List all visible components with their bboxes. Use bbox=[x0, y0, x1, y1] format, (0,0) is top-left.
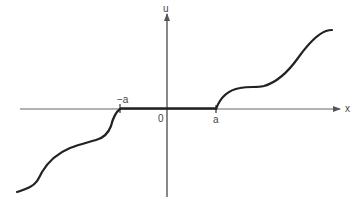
x-axis-label: x bbox=[345, 103, 350, 114]
y-axis-label: u bbox=[163, 3, 169, 14]
function-diagram: u x −a 0 a bbox=[0, 0, 356, 208]
tick-label-neg-a: −a bbox=[117, 94, 129, 105]
tick-label-pos-a: a bbox=[213, 114, 219, 125]
curve-right bbox=[216, 30, 332, 109]
origin-label: 0 bbox=[158, 113, 164, 124]
curve-left bbox=[17, 109, 120, 192]
